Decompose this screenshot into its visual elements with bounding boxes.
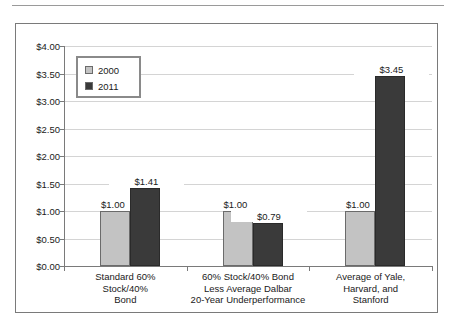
y-tick-mark (60, 211, 64, 212)
y-tick-label: $0.00 (36, 261, 60, 272)
y-tick-label: $1.00 (36, 206, 60, 217)
chart-legend[interactable]: 2000 2011 (76, 56, 141, 98)
category-label-line: 20-Year Underperformance (187, 294, 310, 306)
legend-item-2011[interactable]: 2011 (85, 78, 139, 94)
category-label-line: Standard 60% (64, 271, 187, 283)
y-tick-mark (60, 184, 64, 185)
y-tick-mark (60, 239, 64, 240)
page-top-rule (12, 5, 444, 6)
category-label-line: Bond (64, 294, 187, 306)
bar-2000-group1[interactable] (100, 211, 130, 266)
bar-2011-group1[interactable] (130, 188, 160, 266)
y-tick-mark (60, 129, 64, 130)
y-axis-line (64, 46, 65, 266)
y-tick-mark (60, 46, 64, 47)
category-label-line: Average of Yale, (309, 271, 432, 283)
bar-label-2011-group2: $0.79 (231, 211, 307, 222)
legend-item-2000[interactable]: 2000 (85, 62, 139, 78)
bar-2011-group2[interactable] (253, 223, 283, 266)
category-label-line: 60% Stock/40% Bond (187, 271, 310, 283)
y-tick-label: $4.00 (36, 41, 60, 52)
y-tick-mark (60, 74, 64, 75)
legend-swatch-2000-icon (85, 66, 93, 74)
x-axis-category-labels: Standard 60% Stock/40% Bond 60% Stock/40… (64, 271, 432, 313)
legend-label-2000: 2000 (98, 65, 119, 76)
category-label-line: Stock/40% (64, 283, 187, 295)
category-label-line: Stanford (309, 294, 432, 306)
category-label-line: Harvard, and (309, 283, 432, 295)
bar-label-2000-group2: $1.00 (198, 199, 274, 210)
gridline (64, 46, 432, 47)
y-tick-label: $3.50 (36, 68, 60, 79)
x-axis-baseline (64, 266, 432, 267)
bar-label-2011-group1: $1.41 (109, 176, 185, 187)
x-tick-mark (432, 266, 433, 271)
y-tick-label: $3.00 (36, 96, 60, 107)
legend-label-2011: 2011 (98, 81, 118, 92)
category-label-line: Less Average Dalbar (187, 283, 310, 295)
category-label-group2: 60% Stock/40% Bond Less Average Dalbar 2… (187, 271, 310, 306)
legend-swatch-2011-icon (85, 82, 93, 90)
y-tick-label: $2.50 (36, 123, 60, 134)
chart-frame: $4.00 $3.50 $3.00 $2.50 $2.00 $1.50 $1.0… (15, 23, 438, 313)
category-label-group3: Average of Yale, Harvard, and Stanford (309, 271, 432, 306)
y-tick-label: $0.50 (36, 233, 60, 244)
category-label-group1: Standard 60% Stock/40% Bond (64, 271, 187, 306)
y-axis-labels: $4.00 $3.50 $3.00 $2.50 $2.00 $1.50 $1.0… (16, 46, 60, 266)
y-tick-mark (60, 101, 64, 102)
bar-2000-group3[interactable] (345, 211, 375, 266)
y-tick-label: $1.50 (36, 178, 60, 189)
bar-label-2011-group3: $3.45 (354, 64, 430, 75)
y-tick-mark (60, 156, 64, 157)
bar-2011-group3[interactable] (375, 76, 405, 266)
y-tick-label: $2.00 (36, 151, 60, 162)
